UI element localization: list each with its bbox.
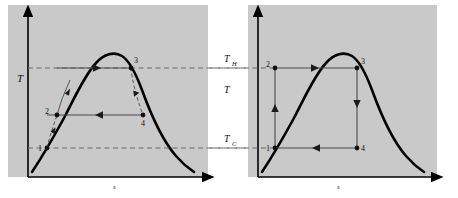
temperature-hot-symbol: T (224, 53, 231, 64)
right-state-point-3 (355, 66, 360, 71)
temperature-cold-symbol: T (224, 133, 231, 144)
right-state-point-4 (355, 146, 360, 151)
right-state-label-4: 4 (361, 144, 365, 153)
ts-diagram-figure: 1 2 3 4 T s T H T T C (0, 0, 458, 198)
right-state-label-2: 2 (266, 60, 270, 69)
right-x-axis-label: s (337, 183, 340, 191)
left-state-label-4: 4 (141, 119, 145, 128)
right-panel-group: 1 2 3 4 s (210, 5, 437, 191)
left-state-point-4 (141, 113, 146, 118)
left-state-point-2 (55, 113, 60, 118)
left-state-label-3: 3 (134, 56, 138, 65)
left-state-label-1: 1 (38, 144, 42, 153)
temperature-cold-subscript: C (232, 140, 237, 147)
left-panel-group: 1 2 3 4 T s (8, 5, 247, 191)
left-state-label-2: 2 (45, 107, 49, 116)
left-y-axis-label: T (17, 72, 24, 84)
left-state-point-1 (45, 146, 50, 151)
right-state-label-3: 3 (361, 57, 365, 66)
left-state-point-3 (129, 66, 134, 71)
right-state-point-2 (273, 66, 278, 71)
center-temperature-labels: T H T T C (224, 53, 237, 147)
right-state-point-1 (273, 146, 278, 151)
left-x-axis-label: s (113, 183, 116, 191)
center-axis-label: T (224, 84, 231, 95)
temperature-hot-subscript: H (231, 60, 237, 67)
figure-root: 1 2 3 4 T s T H T T C (0, 0, 458, 198)
right-state-label-1: 1 (266, 144, 270, 153)
